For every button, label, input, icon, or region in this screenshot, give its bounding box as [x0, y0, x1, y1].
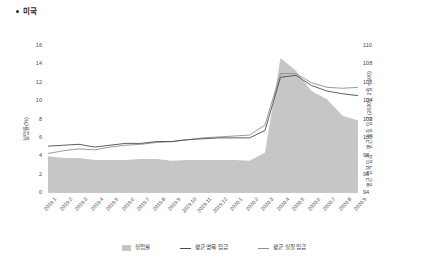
- left-tick-0: 0: [0, 190, 42, 196]
- legend-area-swatch-icon: [122, 245, 131, 251]
- right-tick-96: 96: [363, 172, 385, 178]
- x-tick-2019.3: 2019.3: [73, 196, 88, 212]
- right-tick-102: 102: [363, 117, 385, 123]
- left-tick-6: 6: [0, 135, 42, 141]
- x-tick-2020.9: 2020.9: [352, 196, 367, 212]
- left-tick-16: 16: [0, 43, 42, 49]
- x-tick-2020.3: 2020.3: [259, 196, 274, 212]
- chart-title-text: 미국: [23, 8, 37, 16]
- chart-legend: 실업률평균 명목 임금평균 실질 임금: [0, 245, 428, 251]
- x-tick-2019.4: 2019.4: [89, 196, 104, 212]
- plot-canvas: [48, 46, 358, 193]
- x-axis-line: [48, 192, 358, 193]
- x-tick-2019.8: 2019.8: [151, 196, 166, 212]
- x-tick-2019.7: 2019.7: [135, 196, 150, 212]
- right-tick-108: 108: [363, 61, 385, 67]
- legend-label: 평균 명목 임금: [195, 245, 228, 251]
- right-tick-100: 100: [363, 135, 385, 141]
- x-tick-2020.2: 2020.2: [244, 196, 259, 212]
- x-tick-2020.5: 2020.5: [290, 196, 305, 212]
- x-tick-2019.10: 2019.10: [180, 196, 197, 214]
- right-tick-94: 94: [363, 190, 385, 196]
- right-axis-label: 평균 명목 임금 · 평균 실질 임금 (2020년 2월 = 100): [366, 71, 373, 187]
- right-tick-110: 110: [363, 43, 385, 49]
- x-tick-2019.2: 2019.2: [58, 196, 73, 212]
- left-tick-4: 4: [0, 153, 42, 159]
- legend-item-unemployment[interactable]: 실업률: [122, 245, 150, 251]
- left-tick-8: 8: [0, 117, 42, 123]
- chart-figure: 미국 실업률(%) 평균 명목 임금 · 평균 실질 임금 (2020년 2월 …: [0, 0, 428, 257]
- right-tick-106: 106: [363, 80, 385, 86]
- x-tick-2019.5: 2019.5: [104, 196, 119, 212]
- x-tick-2020.1: 2020.1: [228, 196, 243, 212]
- x-tick-2019.1: 2019.1: [42, 196, 57, 212]
- left-tick-12: 12: [0, 80, 42, 86]
- right-tick-98: 98: [363, 153, 385, 159]
- legend-label: 평균 실질 임금: [273, 245, 306, 251]
- legend-line-swatch-icon: [180, 248, 191, 249]
- legend-item-nominal-wage[interactable]: 평균 명목 임금: [180, 245, 228, 251]
- x-tick-2020.4: 2020.4: [275, 196, 290, 212]
- chart-title: 미국: [16, 8, 37, 16]
- left-tick-14: 14: [0, 61, 42, 67]
- legend-line-swatch-icon: [258, 248, 269, 249]
- legend-label: 실업률: [135, 245, 150, 251]
- x-tick-2019.12: 2019.12: [211, 196, 228, 214]
- x-tick-2020.7: 2020.7: [321, 196, 336, 212]
- x-axis-ticks: 2019.12019.22019.32019.42019.52019.62019…: [48, 196, 358, 230]
- x-tick-2019.11: 2019.11: [196, 196, 213, 214]
- series-unemployment-area: [48, 58, 358, 193]
- x-tick-2019.6: 2019.6: [120, 196, 135, 212]
- left-tick-10: 10: [0, 98, 42, 104]
- legend-item-real-wage[interactable]: 평균 실질 임금: [258, 245, 306, 251]
- right-tick-104: 104: [363, 98, 385, 104]
- x-tick-2020.8: 2020.8: [337, 196, 352, 212]
- plot-area: [48, 46, 358, 193]
- left-tick-2: 2: [0, 172, 42, 178]
- x-tick-2020.6: 2020.6: [306, 196, 321, 212]
- bullet-icon: [16, 10, 19, 13]
